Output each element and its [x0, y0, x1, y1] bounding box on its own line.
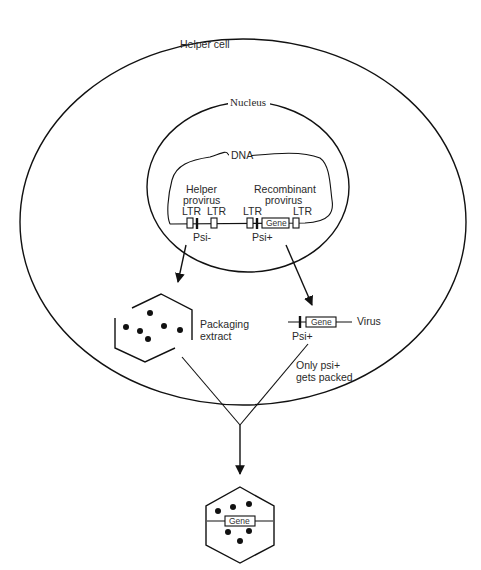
helper-cell-membrane — [20, 39, 466, 405]
note-line-1: Only psi+ — [296, 359, 340, 371]
helper-ltr-left-label: LTR — [182, 205, 201, 217]
packaging-extract-label-2: extract — [200, 330, 232, 342]
recombinant-ltr-right — [293, 218, 299, 228]
helper-ltr-right — [211, 218, 217, 228]
merge-line-right — [240, 344, 308, 425]
nucleus-membrane — [147, 102, 349, 272]
note-line-2: gets packed — [296, 371, 353, 383]
recombinant-ltr-right-label: LTR — [293, 205, 312, 217]
recombinant-ltr-left — [247, 218, 253, 228]
recombinant-psi-label: Psi+ — [252, 231, 273, 243]
helper-psi-label: Psi- — [193, 231, 212, 243]
recombinant-ltr-left-label: LTR — [243, 205, 262, 217]
virus-label: Virus — [357, 315, 381, 327]
virus-gene-label: Gene — [311, 317, 332, 327]
packaging-extract-label-1: Packaging — [200, 318, 249, 330]
retrovirus-packaging-diagram: Helper cell Nucleus DNA Helper provirus … — [0, 0, 481, 570]
arrow-to-virus — [286, 245, 312, 305]
helper-cell-label: Helper cell — [180, 38, 230, 50]
recombinant-gene-label: Gene — [266, 218, 287, 228]
nucleus-label: Nucleus — [230, 96, 266, 108]
final-gene-label: Gene — [229, 516, 250, 526]
helper-ltr-right-label: LTR — [207, 205, 226, 217]
dna-label: DNA — [231, 149, 253, 161]
merge-line-left — [182, 357, 240, 425]
virus-psi-label: Psi+ — [292, 330, 313, 342]
helper-ltr-left — [187, 218, 193, 228]
